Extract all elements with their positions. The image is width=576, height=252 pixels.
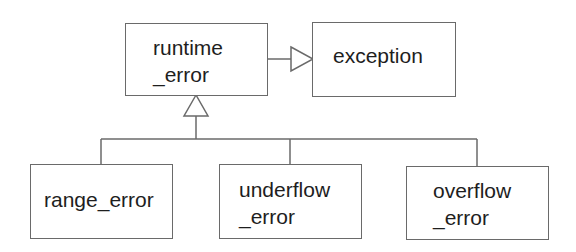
class-name-line: _error	[433, 204, 489, 231]
class-label: range_error	[31, 165, 172, 238]
class-name-line: range_error	[44, 186, 154, 213]
class-name-line: underflow	[239, 176, 330, 203]
class-runtime-error: runtime _error	[125, 23, 268, 96]
class-range-error: range_error	[30, 164, 173, 239]
class-name-line: overflow	[433, 177, 511, 204]
class-name-line: runtime	[153, 34, 223, 61]
class-name-line: exception	[333, 42, 423, 69]
class-label: exception	[313, 23, 455, 96]
class-label: overflow _error	[407, 167, 548, 239]
class-exception: exception	[312, 22, 456, 97]
class-label: underflow _error	[220, 165, 361, 238]
class-name-line: _error	[153, 61, 209, 88]
class-label: runtime _error	[126, 24, 267, 95]
generalization-arrow-icon	[291, 47, 313, 71]
class-name-line: _error	[239, 203, 295, 230]
class-overflow-error: overflow _error	[406, 166, 549, 240]
generalization-arrow-icon	[184, 95, 208, 116]
class-underflow-error: underflow _error	[219, 164, 362, 239]
